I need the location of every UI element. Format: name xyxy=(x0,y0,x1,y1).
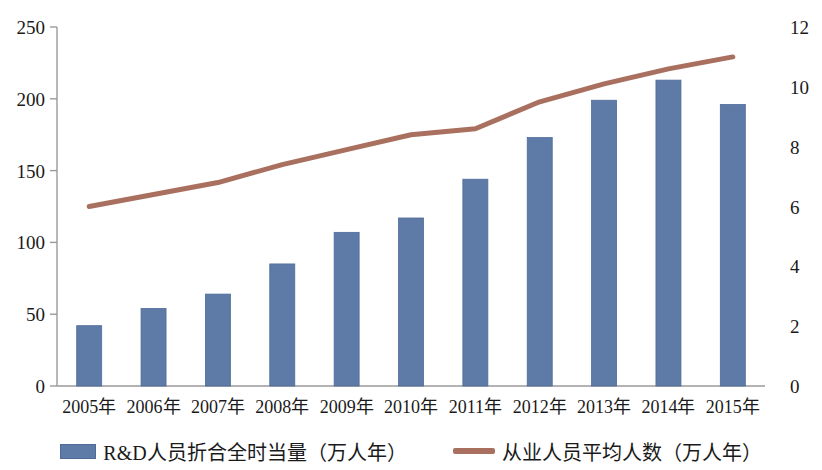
left-axis-tick-label: 250 xyxy=(17,17,46,38)
chart-plot-area: 050100150200250 024681012 2005年2006年2007… xyxy=(0,0,822,470)
right-axis-tick-label: 12 xyxy=(790,17,809,38)
left-axis-tick-label: 150 xyxy=(17,161,46,182)
category-label: 2006年 xyxy=(127,397,181,417)
bar xyxy=(656,80,681,386)
legend-item-bar: R&D人员折合全时当量（万人年） xyxy=(60,437,406,466)
bar xyxy=(527,138,552,386)
category-label: 2014年 xyxy=(641,397,695,417)
category-label: 2005年 xyxy=(62,397,116,417)
left-axis-ticks xyxy=(50,27,57,386)
category-label: 2007年 xyxy=(191,397,245,417)
legend-line-label: 从业人员平均人数（万人年） xyxy=(502,437,762,466)
bar xyxy=(720,105,745,386)
bar-series xyxy=(77,80,746,386)
right-axis-tick-label: 8 xyxy=(790,137,800,158)
right-axis-tick-label: 10 xyxy=(790,77,809,98)
left-axis-tick-label: 200 xyxy=(17,89,46,110)
chart-legend: R&D人员折合全时当量（万人年） 从业人员平均人数（万人年） xyxy=(0,432,822,470)
category-label: 2008年 xyxy=(255,397,309,417)
right-axis-tick-label: 2 xyxy=(790,316,800,337)
category-label: 2012年 xyxy=(513,397,567,417)
bar xyxy=(77,326,102,386)
bar xyxy=(270,264,295,386)
bar xyxy=(399,218,424,386)
legend-bar-label: R&D人员折合全时当量（万人年） xyxy=(103,437,406,466)
category-label: 2009年 xyxy=(320,397,374,417)
legend-bar-swatch-icon xyxy=(60,444,96,459)
left-axis-tick-label: 0 xyxy=(36,376,46,397)
right-axis-tick-label: 4 xyxy=(790,256,800,277)
category-label: 2010年 xyxy=(384,397,438,417)
category-label: 2015年 xyxy=(706,397,760,417)
chart-container: 050100150200250 024681012 2005年2006年2007… xyxy=(0,0,822,470)
left-axis-tick-label: 100 xyxy=(17,232,46,253)
left-axis-tick-labels: 050100150200250 xyxy=(17,17,46,397)
right-axis-tick-label: 6 xyxy=(790,197,800,218)
category-label: 2011年 xyxy=(449,397,502,417)
right-axis-tick-label: 0 xyxy=(790,376,800,397)
bar xyxy=(141,308,166,386)
category-labels: 2005年2006年2007年2008年2009年2010年2011年2012年… xyxy=(62,397,760,417)
legend-line-swatch-icon xyxy=(453,448,495,454)
left-axis-tick-label: 50 xyxy=(26,304,45,325)
bar xyxy=(334,232,359,386)
right-axis-tick-labels: 024681012 xyxy=(790,17,809,397)
bar xyxy=(592,100,617,386)
category-label: 2013年 xyxy=(577,397,631,417)
bar xyxy=(205,294,230,386)
bar xyxy=(463,179,488,386)
legend-item-line: 从业人员平均人数（万人年） xyxy=(453,437,762,466)
line-series xyxy=(89,57,733,207)
